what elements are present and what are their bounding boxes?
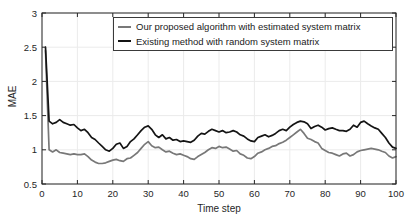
x-axis-label: Time step — [42, 203, 396, 214]
y-tick-label: 0.5 — [24, 179, 37, 190]
series-existing-line — [46, 47, 397, 151]
legend-label-existing: Existing method with random system matri… — [136, 36, 319, 47]
x-tick-label: 40 — [178, 188, 189, 199]
series-proposed-line — [46, 51, 397, 164]
x-tick-label: 60 — [249, 188, 260, 199]
x-tick-label: 20 — [108, 188, 119, 199]
x-tick-label: 70 — [285, 188, 296, 199]
y-tick-label: 2 — [32, 76, 37, 87]
x-tick-label: 80 — [320, 188, 331, 199]
y-tick-label: 2.5 — [24, 42, 37, 53]
y-tick-label: 3 — [32, 8, 37, 19]
legend[interactable]: Our proposed algorithm with estimated sy… — [113, 17, 393, 51]
proposed-line-swatch — [118, 26, 131, 28]
x-tick-label: 30 — [143, 188, 154, 199]
legend-item-proposed[interactable]: Our proposed algorithm with estimated sy… — [118, 20, 388, 34]
y-tick-label: 1 — [32, 144, 37, 155]
legend-label-proposed: Our proposed algorithm with estimated sy… — [136, 21, 360, 32]
x-tick-label: 90 — [355, 188, 366, 199]
figure: 01020304050607080901000.511.522.53 Our p… — [0, 0, 405, 222]
x-tick-label: 50 — [214, 188, 225, 199]
x-tick-label: 100 — [388, 188, 404, 199]
existing-line-swatch — [118, 40, 131, 42]
x-tick-label: 10 — [72, 188, 83, 199]
y-axis-label: MAE — [7, 77, 18, 117]
x-tick-label: 0 — [39, 188, 44, 199]
legend-item-existing[interactable]: Existing method with random system matri… — [118, 34, 388, 48]
y-tick-label: 1.5 — [24, 110, 37, 121]
